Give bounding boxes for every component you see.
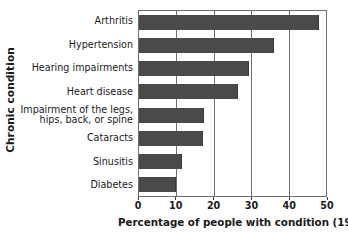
bar-row bbox=[139, 150, 326, 173]
bar-row bbox=[139, 57, 326, 80]
bar-row bbox=[139, 11, 326, 34]
x-axis-tick-label: 10 bbox=[169, 200, 182, 211]
bar-row bbox=[139, 127, 326, 150]
x-axis-tick-label: 0 bbox=[135, 200, 142, 211]
x-axis-tick-label: 40 bbox=[283, 200, 296, 211]
bar bbox=[139, 38, 274, 53]
y-axis-tick-label: Sinusitis bbox=[18, 150, 136, 173]
plot-area bbox=[138, 10, 327, 197]
bar bbox=[139, 154, 182, 169]
bar-series bbox=[139, 11, 326, 196]
x-axis-title: Percentage of people with condition (199… bbox=[118, 216, 346, 228]
x-axis-tick-label: 20 bbox=[207, 200, 220, 211]
bar bbox=[139, 108, 204, 123]
bar bbox=[139, 177, 176, 192]
bar-chart-figure: Chronic condition Arthritis Hypertension… bbox=[0, 0, 348, 240]
y-axis-tick-label: Cataracts bbox=[18, 127, 136, 150]
bar-row bbox=[139, 80, 326, 103]
y-axis-tick-label: Arthritis bbox=[18, 10, 136, 33]
bar bbox=[139, 84, 238, 99]
y-axis-tick-label: Hypertension bbox=[18, 33, 136, 56]
y-axis-title: Chronic condition bbox=[0, 0, 20, 200]
bar bbox=[139, 15, 319, 30]
y-axis-tick-label: Heart disease bbox=[18, 80, 136, 103]
x-axis-tick-label: 50 bbox=[320, 200, 333, 211]
y-axis-tick-labels: Arthritis Hypertension Hearing impairmen… bbox=[18, 10, 136, 197]
bar-row bbox=[139, 34, 326, 57]
bar-row bbox=[139, 173, 326, 196]
y-axis-tick-label: Hearing impairments bbox=[18, 57, 136, 80]
y-axis-title-text: Chronic condition bbox=[4, 47, 16, 153]
y-axis-tick-label: Impairment of the legs, hips, back, or s… bbox=[18, 104, 136, 127]
bar bbox=[139, 131, 203, 146]
x-axis-tick-label: 30 bbox=[245, 200, 258, 211]
bar bbox=[139, 61, 249, 76]
bar-row bbox=[139, 104, 326, 127]
x-axis-tick-labels: 01020304050 bbox=[138, 197, 327, 213]
y-axis-tick-label: Diabetes bbox=[18, 174, 136, 197]
